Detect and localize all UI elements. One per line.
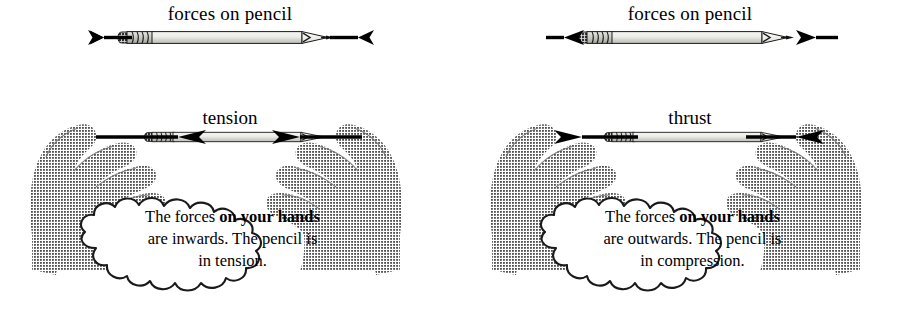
cloud-text-tension: The forces on your hands are inwards. Th… [90,206,375,272]
pencil-icon [578,32,794,44]
panel-compression: forces on pencil [460,0,920,333]
figure-root: forces on pencil [0,0,920,333]
mid-label-thrust: thrust [610,108,770,127]
compression-illustration [460,0,920,333]
pencil-icon [118,32,334,44]
arrow-left-icon [796,30,838,45]
mid-label-tension: tension [150,108,310,127]
panel-tension: forces on pencil [0,0,460,333]
arrow-right-icon [546,30,584,45]
cloud-text-compression: The forces on your hands are outwards. T… [550,206,835,272]
tension-illustration [0,0,460,333]
arrow-right-icon [330,30,374,45]
